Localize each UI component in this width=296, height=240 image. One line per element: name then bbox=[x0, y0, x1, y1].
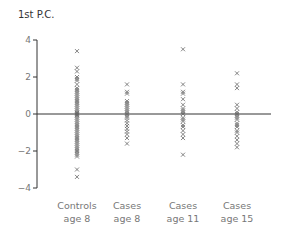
data-point bbox=[235, 145, 239, 149]
data-point bbox=[235, 106, 239, 110]
data-point bbox=[235, 134, 239, 138]
data-point bbox=[75, 66, 79, 70]
axes: 420−2−4 bbox=[18, 35, 271, 193]
y-tick-label: −2 bbox=[18, 146, 31, 156]
data-points bbox=[75, 47, 239, 179]
data-point bbox=[235, 82, 239, 86]
scatter-chart: 1st P.C. 420−2−4 Controlsage 8Casesage 8… bbox=[0, 0, 296, 240]
data-point bbox=[181, 153, 185, 157]
data-point bbox=[181, 82, 185, 86]
data-point bbox=[125, 82, 129, 86]
data-point bbox=[235, 103, 239, 107]
data-point bbox=[75, 82, 79, 86]
y-tick-label: 0 bbox=[25, 109, 31, 119]
category-labels: Controlsage 8Casesage 8Casesage 11Casesa… bbox=[57, 200, 253, 224]
x-category-sublabel: age 8 bbox=[64, 213, 91, 224]
series-0 bbox=[75, 49, 79, 179]
data-point bbox=[181, 132, 185, 136]
y-tick-label: 2 bbox=[25, 72, 31, 82]
x-category-label: Cases bbox=[113, 200, 141, 211]
data-point bbox=[181, 103, 185, 107]
data-point bbox=[181, 47, 185, 51]
data-point bbox=[181, 97, 185, 101]
y-tick-label: 4 bbox=[25, 35, 31, 45]
series-2 bbox=[181, 47, 185, 156]
data-point bbox=[125, 132, 129, 136]
data-point bbox=[75, 69, 79, 73]
data-point bbox=[75, 49, 79, 53]
data-point bbox=[125, 142, 129, 146]
series-3 bbox=[235, 71, 239, 149]
x-category-label: Cases bbox=[169, 200, 197, 211]
y-axis-title: 1st P.C. bbox=[18, 9, 54, 20]
series-1 bbox=[125, 82, 129, 145]
y-tick-label: −4 bbox=[18, 183, 32, 193]
data-point bbox=[75, 168, 79, 172]
x-category-sublabel: age 8 bbox=[114, 213, 141, 224]
x-category-sublabel: age 11 bbox=[167, 213, 200, 224]
data-point bbox=[125, 136, 129, 140]
data-point bbox=[181, 136, 185, 140]
x-category-label: Cases bbox=[223, 200, 251, 211]
data-point bbox=[235, 138, 239, 142]
x-category-label: Controls bbox=[57, 200, 96, 211]
data-point bbox=[235, 142, 239, 146]
data-point bbox=[181, 129, 185, 133]
data-point bbox=[235, 71, 239, 75]
data-point bbox=[75, 175, 79, 179]
data-point bbox=[235, 86, 239, 90]
x-category-sublabel: age 15 bbox=[221, 213, 254, 224]
